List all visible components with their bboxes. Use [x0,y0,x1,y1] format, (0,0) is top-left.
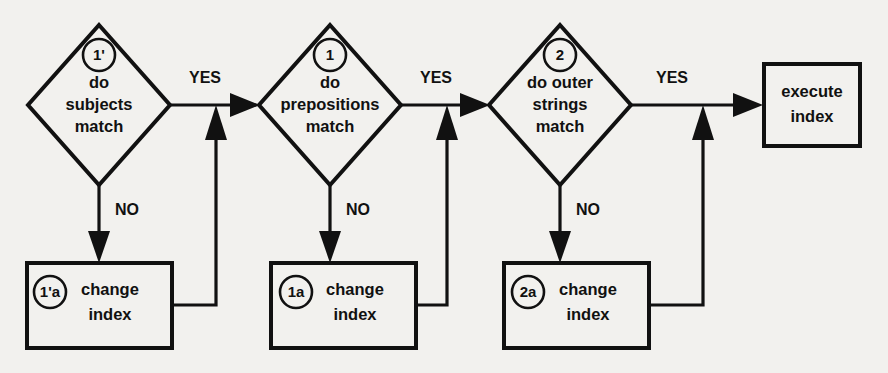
flowchart-canvas: 1' do subjects match YES NO 1'a change i… [0,0,888,373]
decision-outer-strings-line1: do outer [527,73,594,91]
edge-prepositions-no-arrowhead [319,231,341,263]
edge-outer-strings-no: NO [549,185,600,263]
process-execute-index-box[interactable] [764,64,860,146]
decision-prepositions[interactable]: 1 do prepositions match [259,25,401,185]
process-execute-index[interactable]: execute index [764,64,860,146]
edge-subjects-no: NO [88,185,139,263]
edge-return-1 [416,105,458,305]
decision-prepositions-line3: match [306,117,355,135]
decision-subjects-badge: 1' [93,46,105,63]
edge-subjects-yes-label: YES [189,69,221,86]
edge-outer-strings-yes: YES [631,69,763,117]
edge-prepositions-no-label: NO [346,201,370,218]
process-execute-index-line2: index [790,107,834,125]
process-change-index-1p-badge: 1'a [40,283,61,300]
process-change-index-2-line2: index [566,305,610,323]
edge-prepositions-yes-label: YES [420,69,452,86]
edge-subjects-yes-arrowhead [230,93,260,117]
process-execute-index-line1: execute [781,82,842,100]
process-change-index-1-badge: 1a [288,283,305,300]
process-change-index-1p[interactable]: 1'a change index [27,263,172,348]
process-change-index-2-badge: 2a [520,283,537,300]
decision-prepositions-line1: do [320,73,340,91]
decision-subjects-line1: do [89,73,109,91]
edge-subjects-no-label: NO [115,201,139,218]
decision-subjects[interactable]: 1' do subjects match [28,25,170,185]
process-change-index-2[interactable]: 2a change index [504,263,649,348]
decision-outer-strings-badge: 2 [556,46,564,63]
edge-return-1p-path [172,137,216,305]
edge-outer-strings-no-label: NO [576,201,600,218]
edge-subjects-no-arrowhead [88,231,110,263]
decision-outer-strings-line2: strings [532,95,587,113]
process-change-index-2-line1: change [559,280,617,298]
edge-return-1-arrowhead [436,105,458,140]
decision-prepositions-line2: prepositions [280,95,379,113]
process-change-index-1p-line2: index [88,305,132,323]
edge-return-2 [649,105,714,305]
edge-return-1p [172,105,227,305]
edge-return-1-path [416,137,447,305]
edge-outer-strings-no-arrowhead [549,231,571,263]
edge-prepositions-yes-arrowhead [460,93,490,117]
edge-return-1p-arrowhead [205,105,227,140]
decision-outer-strings-line3: match [536,117,585,135]
flowchart-svg: 1' do subjects match YES NO 1'a change i… [0,0,888,373]
decision-prepositions-badge: 1 [326,46,334,63]
process-change-index-1-line2: index [333,305,377,323]
process-change-index-1[interactable]: 1a change index [271,263,416,348]
edge-return-2-arrowhead [692,105,714,140]
decision-outer-strings[interactable]: 2 do outer strings match [489,25,631,185]
process-change-index-1-line1: change [326,280,384,298]
process-change-index-1p-line1: change [81,280,139,298]
edge-outer-strings-yes-arrowhead [733,93,763,117]
edge-outer-strings-yes-label: YES [656,69,688,86]
edge-prepositions-no: NO [319,185,370,263]
decision-subjects-line2: subjects [66,95,133,113]
decision-subjects-line3: match [75,117,124,135]
edge-return-2-path [649,137,703,305]
